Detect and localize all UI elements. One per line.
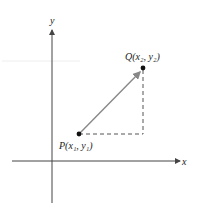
point-p-label: P(x₁, y₁)	[58, 140, 93, 152]
y-axis-label: y	[49, 15, 55, 26]
diagram-svg: y x P(x₁, y₁) Q(x₂, y₂)	[0, 0, 201, 213]
x-axis-label: x	[181, 156, 187, 167]
point-p	[77, 132, 82, 137]
point-q-label: Q(x₂, y₂)	[125, 51, 160, 63]
point-q	[141, 66, 146, 71]
vector-diagram: y x P(x₁, y₁) Q(x₂, y₂)	[0, 0, 201, 213]
vector-pq	[79, 72, 140, 134]
